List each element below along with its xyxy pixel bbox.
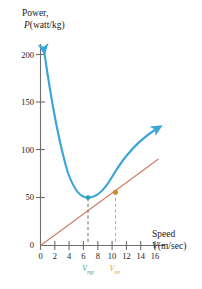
x-tick-label-2: 2 [48,251,62,261]
x-tick-label-12: 12 [119,251,133,261]
x-axis-units: (m/sec) [158,241,187,251]
x-tick-label-0: 0 [34,251,48,261]
y-tick-label-100: 100 [6,145,34,155]
y-tick-label-0: 0 [6,240,34,250]
x-tick-label-6: 6 [76,251,90,261]
x-tick-label-8: 8 [91,251,105,261]
x-axis-title-line1: Speed [152,229,175,239]
y-axis-title-line2: P(watt/kg) [22,20,65,32]
power-curve [44,50,158,198]
x-tick-label-16: 16 [148,251,162,261]
x-tick-label-14: 14 [134,251,148,261]
y-tick-label-50: 50 [6,192,34,202]
y-axis-units: (watt/kg) [30,20,65,30]
power-vs-speed-figure: Power, P(watt/kg) Speed V(m/sec) 0 50 10… [0,0,202,289]
minimum-power-point-dot [86,195,91,200]
vmr-subscript: mr [114,269,120,275]
vmp-label: Vmp [76,264,100,275]
maximum-range-point-dot [113,190,118,195]
y-axis-title: Power, P(watt/kg) [22,8,65,31]
y-axis-title-line1: Power, [22,8,48,18]
y-tick-label-200: 200 [6,50,34,60]
tangent-line [41,159,159,246]
vmr-label: Vmr [103,264,127,275]
x-tick-label-4: 4 [62,251,76,261]
y-tick-label-150: 150 [6,97,34,107]
x-axis-title: Speed V(m/sec) [152,229,186,252]
x-tick-label-10: 10 [105,251,119,261]
vmp-subscript: mp [87,269,94,275]
